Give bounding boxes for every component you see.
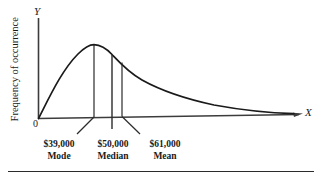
annotation-mean-label: Mean [139,151,191,163]
annotation-mode: $39,000 Mode [31,139,87,162]
annotation-median-value: $50,000 [85,139,141,151]
annotation-median: $50,000 Median [85,139,141,162]
annotation-mode-label: Mode [31,151,87,163]
bottom-divider [8,171,314,172]
y-axis-title: Frequency of occurrence [10,13,21,125]
annotation-mode-value: $39,000 [31,139,87,151]
x-axis-letter: X [305,107,312,118]
mean-leader-line [122,117,140,135]
annotation-mean-value: $61,000 [139,139,191,151]
y-axis-letter: Y [34,6,40,17]
annotation-mean: $61,000 Mean [139,139,191,162]
origin-label: 0 [33,119,38,129]
mode-leader-line [77,117,94,134]
annotation-median-label: Median [85,151,141,163]
frequency-curve [39,45,295,119]
x-axis-line [38,115,299,119]
distribution-figure: Y X 0 Frequency of occurrence $39,000 Mo… [0,0,323,179]
